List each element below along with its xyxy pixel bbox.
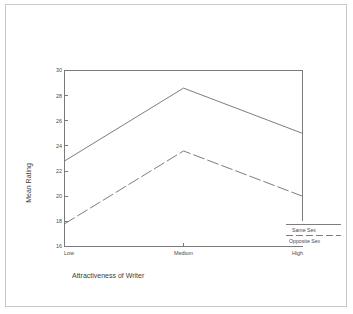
y-axis-title: Mean Rating	[25, 163, 33, 203]
y-tick-label-20: 20	[56, 193, 62, 199]
y-tick-label-22: 22	[56, 168, 62, 174]
x-label-medium: Medium	[174, 250, 194, 256]
y-tick-label-24: 24	[56, 143, 62, 149]
y-axis-ticks	[65, 71, 69, 247]
y-tick-label-26: 26	[56, 118, 62, 124]
chart-legend: Same Sex Opposite Sex	[283, 221, 343, 246]
x-axis-ticks	[65, 243, 303, 247]
x-label-high: High	[292, 250, 303, 256]
x-axis-category-labels: Low Medium High	[64, 250, 303, 256]
line-chart: 16 18 20 22 24 26 28 30 Low Medium High	[0, 0, 353, 314]
series-line-same-sex	[65, 88, 303, 161]
plot-frame	[65, 70, 304, 247]
y-axis-tick-labels: 16 18 20 22 24 26 28 30	[56, 67, 62, 249]
series-line-opposite-sex	[65, 151, 303, 224]
chart-page: 16 18 20 22 24 26 28 30 Low Medium High	[0, 0, 353, 314]
chart-svg: 16 18 20 22 24 26 28 30 Low Medium High	[0, 0, 353, 314]
legend-label-opposite-sex: Opposite Sex	[289, 238, 321, 244]
x-label-low: Low	[64, 250, 74, 256]
y-tick-label-30: 30	[56, 67, 62, 73]
y-tick-label-18: 18	[56, 218, 62, 224]
x-axis-title: Attractiveness of Writer	[72, 272, 145, 279]
legend-label-same-sex: Same Sex	[292, 227, 316, 233]
y-tick-label-16: 16	[56, 243, 62, 249]
y-tick-label-28: 28	[56, 93, 62, 99]
